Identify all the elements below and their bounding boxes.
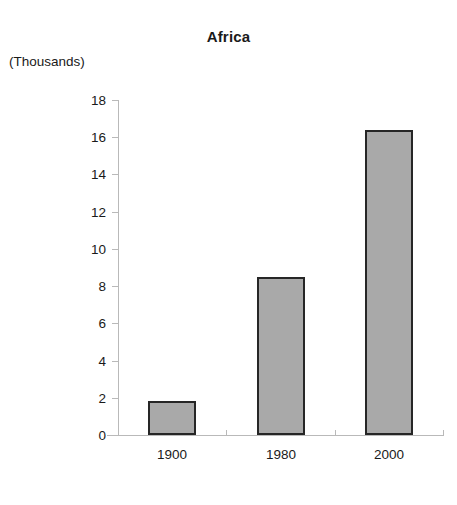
y-axis-tick-label: 0 [66,429,106,443]
y-axis-tick [112,249,119,250]
y-axis-tick-label: 2 [66,392,106,406]
x-axis-tick-label: 1900 [132,447,212,462]
x-axis-tick [118,430,119,436]
y-axis-tick [112,137,119,138]
x-axis-tick-label: 1980 [241,447,321,462]
y-axis-tick [112,398,119,399]
y-axis-tick [112,174,119,175]
bar [257,277,305,435]
y-axis-tick [112,212,119,213]
x-axis-tick [226,430,227,436]
y-axis-tick [112,361,119,362]
x-axis-line [107,435,443,436]
y-axis-tick-label: 12 [66,206,106,220]
y-axis-tick [112,323,119,324]
y-axis-tick-label: 10 [66,243,106,257]
y-axis-line [118,100,119,436]
y-axis-tick-label: 6 [66,317,106,331]
y-axis-tick [112,286,119,287]
y-axis-tick [112,100,119,101]
y-axis-tick-label: 8 [66,280,106,294]
x-axis-tick-label: 2000 [349,447,429,462]
y-axis-tick-label: 4 [66,355,106,369]
plot-area: 024681012141618 190019802000 [0,0,457,505]
chart-figure: Africa (Thousands) 024681012141618 19001… [0,0,457,505]
x-axis-tick [443,430,444,436]
bar [148,401,196,435]
y-axis-tick-label: 14 [66,168,106,182]
x-axis-tick [335,430,336,436]
bar [365,130,413,435]
y-axis-tick-label: 18 [66,94,106,108]
y-axis-tick-label: 16 [66,131,106,145]
